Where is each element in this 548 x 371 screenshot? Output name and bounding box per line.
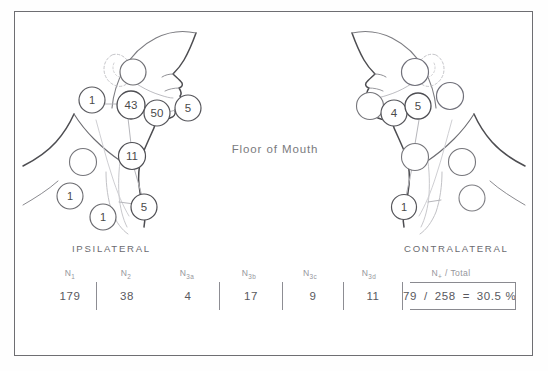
table-header-n3c-sub: 3c: [310, 273, 318, 280]
table-cell-n3b: 17: [219, 282, 282, 310]
table-header-n1: N1: [44, 268, 96, 282]
summary-table: N1 N2 N3a N3b N3c N3d N+ / Total 179: [44, 262, 504, 310]
table-cell-n1: 179: [44, 282, 96, 310]
total-denominator: 258: [435, 282, 456, 310]
center-title: Floor of Mouth: [213, 143, 337, 155]
table-header-total-suffix: / Total: [445, 268, 471, 278]
total-expression: 79 / 258 = 30.5 %: [403, 282, 516, 310]
table-header-n3a-sub: 3a: [186, 273, 194, 280]
table-header-n3d-sub: 3d: [368, 273, 376, 280]
contralateral-label: CONTRALATERAL: [404, 243, 509, 254]
table-cell-n2: 38: [96, 282, 157, 310]
table-cell-n3d: 11: [343, 282, 402, 310]
table-header-n3b: N3b: [218, 268, 280, 282]
table-cell-n3c: 9: [282, 282, 343, 310]
table-header-n2-sub: 2: [127, 273, 131, 280]
total-equals: =: [463, 282, 470, 310]
ipsilateral-label: IPSILATERAL: [72, 243, 151, 254]
total-numerator: 79: [403, 282, 417, 310]
table-header-n3b-sub: 3b: [248, 273, 256, 280]
table-header-n2: N2: [96, 268, 156, 282]
table-header-n3c: N3c: [280, 268, 340, 282]
table-header-n3a: N3a: [156, 268, 218, 282]
total-slash: /: [424, 282, 428, 310]
table-cell-total: 79 / 258 = 30.5 %: [402, 282, 516, 310]
table-value-row: 179 38 4 17 9 11 79 / 258 = 30.5 %: [44, 282, 504, 310]
table-header-total: N+ / Total: [398, 268, 504, 282]
figure-root: 1 43 50 5 11 5 1 1 4 5: [0, 0, 548, 371]
table-header-n3c-base: N: [303, 268, 310, 278]
total-percent: 30.5 %: [477, 282, 516, 310]
table-header-n3d: N3d: [340, 268, 398, 282]
table-header-total-sub: +: [438, 273, 442, 280]
table-header-n1-sub: 1: [71, 273, 75, 280]
table-header-row: N1 N2 N3a N3b N3c N3d N+ / Total: [44, 262, 504, 282]
table-cell-n3a: 4: [157, 282, 219, 310]
